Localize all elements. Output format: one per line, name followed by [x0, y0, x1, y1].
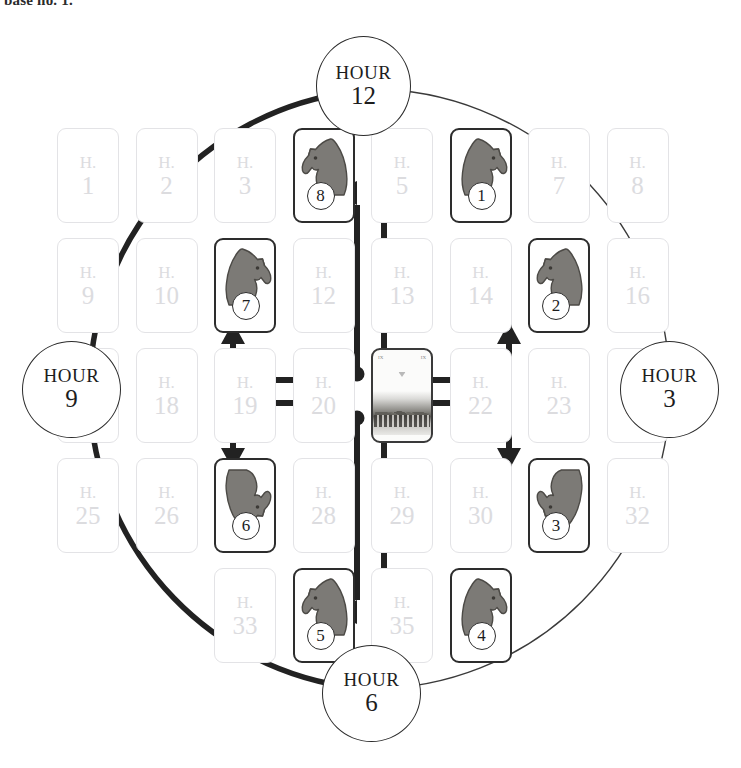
- card-h-4[interactable]: H.4: [293, 128, 355, 223]
- card-prefix: H.: [158, 154, 175, 171]
- card-h-12[interactable]: H.12: [293, 238, 355, 333]
- card-prefix: H.: [237, 154, 254, 171]
- card-number: 25: [76, 503, 101, 528]
- card-h-6[interactable]: H.6: [450, 128, 512, 223]
- card-h-36[interactable]: H.36: [450, 568, 512, 663]
- card-number: 8: [631, 173, 644, 198]
- card-h-3[interactable]: H.3: [214, 128, 276, 223]
- card-prefix: H.: [315, 264, 332, 281]
- center-card-mark: [399, 372, 406, 377]
- card-h-30[interactable]: H.30: [450, 458, 512, 553]
- card-grid: H.1H.2H.3H.48H.5H.61H.7H.8H.9H.10H.117H.…: [57, 128, 685, 668]
- card-prefix: H.: [158, 484, 175, 501]
- center-card-pip-right: IX: [421, 355, 426, 360]
- hour-bubble-12[interactable]: HOUR 12: [316, 36, 411, 136]
- hour-word: HOUR: [642, 366, 698, 386]
- hour-word: HOUR: [344, 670, 400, 690]
- card-h-32[interactable]: H.32: [607, 458, 669, 553]
- center-card[interactable]: IXIX: [371, 348, 433, 443]
- card-number: 35: [390, 613, 415, 638]
- hour-number: 12: [351, 83, 376, 109]
- card-h-16[interactable]: H.16: [607, 238, 669, 333]
- card-number: 22: [468, 393, 493, 418]
- card-prefix: H.: [629, 264, 646, 281]
- card-h-13[interactable]: H.13: [371, 238, 433, 333]
- card-h-29[interactable]: H.29: [371, 458, 433, 553]
- card-number: 20: [311, 393, 336, 418]
- card-prefix: H.: [394, 154, 411, 171]
- center-card-pip-left: IX: [378, 355, 383, 360]
- center-card-scene: [373, 391, 431, 435]
- card-h-9[interactable]: H.9: [57, 238, 119, 333]
- card-prefix: H.: [80, 264, 97, 281]
- card-number: 33: [233, 613, 258, 638]
- card-prefix: H.: [80, 154, 97, 171]
- card-h-14[interactable]: H.14: [450, 238, 512, 333]
- card-prefix: H.: [629, 154, 646, 171]
- hour-number: 3: [663, 386, 676, 412]
- card-h-27[interactable]: H.27: [214, 458, 276, 553]
- card-prefix: H.: [394, 484, 411, 501]
- card-h-7[interactable]: H.7: [528, 128, 590, 223]
- card-h-19[interactable]: H.19: [214, 348, 276, 443]
- card-number: 30: [468, 503, 493, 528]
- card-h-10[interactable]: H.10: [136, 238, 198, 333]
- card-number: 2: [160, 173, 173, 198]
- card-prefix: H.: [315, 374, 332, 391]
- card-number: 12: [311, 283, 336, 308]
- card-h-31[interactable]: H.31: [528, 458, 590, 553]
- card-prefix: H.: [158, 264, 175, 281]
- card-h-23[interactable]: H.23: [528, 348, 590, 443]
- card-prefix: H.: [472, 374, 489, 391]
- card-h-22[interactable]: H.22: [450, 348, 512, 443]
- hour-word: HOUR: [44, 366, 100, 386]
- card-prefix: H.: [158, 374, 175, 391]
- card-prefix: H.: [237, 594, 254, 611]
- card-number: 19: [233, 393, 258, 418]
- card-h-34[interactable]: H.34: [293, 568, 355, 663]
- card-prefix: H.: [80, 484, 97, 501]
- diagram-page: base no. 1.: [0, 0, 741, 768]
- card-number: 13: [390, 283, 415, 308]
- card-number: 18: [154, 393, 179, 418]
- card-h-11[interactable]: H.11: [214, 238, 276, 333]
- card-number: 3: [239, 173, 252, 198]
- card-h-8[interactable]: H.8: [607, 128, 669, 223]
- card-h-20[interactable]: H.20: [293, 348, 355, 443]
- hour-bubble-3[interactable]: HOUR 3: [620, 341, 719, 438]
- card-prefix: H.: [237, 374, 254, 391]
- card-prefix: H.: [551, 154, 568, 171]
- card-h-18[interactable]: H.18: [136, 348, 198, 443]
- card-h-33[interactable]: H.33: [214, 568, 276, 663]
- card-number: 10: [154, 283, 179, 308]
- card-h-1[interactable]: H.1: [57, 128, 119, 223]
- card-number: 7: [553, 173, 566, 198]
- card-number: 14: [468, 283, 493, 308]
- card-h-28[interactable]: H.28: [293, 458, 355, 553]
- card-h-26[interactable]: H.26: [136, 458, 198, 553]
- card-prefix: H.: [315, 484, 332, 501]
- card-h-2[interactable]: H.2: [136, 128, 198, 223]
- card-prefix: H.: [472, 484, 489, 501]
- card-prefix: H.: [629, 484, 646, 501]
- card-number: 9: [82, 283, 95, 308]
- center-card-art: IXIX: [373, 350, 431, 441]
- hour-bubble-6[interactable]: HOUR 6: [322, 645, 421, 742]
- card-number: 29: [390, 503, 415, 528]
- card-number: 5: [396, 173, 409, 198]
- hour-word: HOUR: [336, 63, 392, 83]
- card-prefix: H.: [394, 594, 411, 611]
- hour-bubble-9[interactable]: HOUR 9: [22, 341, 121, 438]
- card-prefix: H.: [394, 264, 411, 281]
- card-number: 28: [311, 503, 336, 528]
- card-h-25[interactable]: H.25: [57, 458, 119, 553]
- card-h-5[interactable]: H.5: [371, 128, 433, 223]
- hour-number: 9: [65, 386, 78, 412]
- card-h-15[interactable]: H.15: [528, 238, 590, 333]
- card-prefix: H.: [551, 374, 568, 391]
- card-number: 23: [547, 393, 572, 418]
- hour-number: 6: [365, 690, 378, 716]
- card-number: 26: [154, 503, 179, 528]
- card-number: 16: [625, 283, 650, 308]
- card-prefix: H.: [472, 264, 489, 281]
